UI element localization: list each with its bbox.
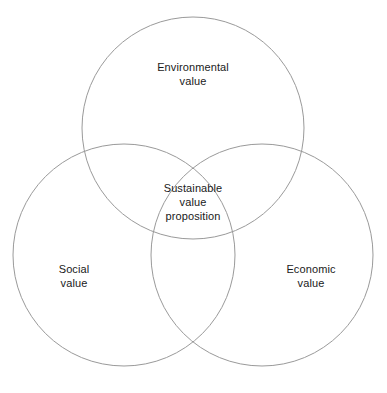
venn-circles-canvas xyxy=(0,0,387,393)
venn-diagram: Environmental value Social value Economi… xyxy=(0,0,387,393)
diagram-background xyxy=(0,0,387,393)
